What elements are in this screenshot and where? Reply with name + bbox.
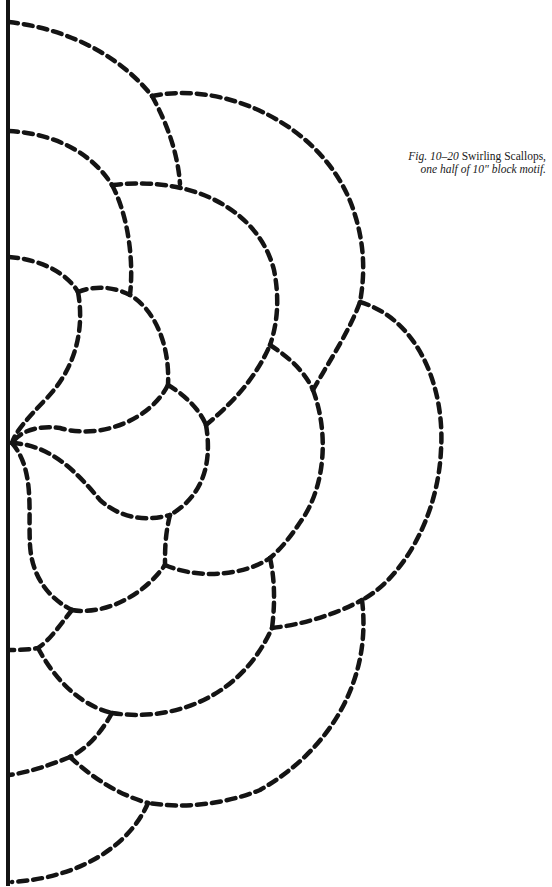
lower-link-4-line	[70, 713, 112, 757]
lower-big-curve-line	[112, 628, 272, 715]
third-arc-line	[9, 257, 78, 292]
top-outer-arc-line	[9, 22, 152, 96]
inner-petal-top-line	[78, 288, 168, 385]
center-to-link-line	[165, 515, 170, 565]
petal-link-3-line	[270, 345, 313, 390]
petal-link-1-line	[168, 385, 206, 425]
center-lower-curve-line	[12, 443, 170, 518]
lower-left-2-line	[9, 757, 70, 775]
right-petal-down-line	[270, 390, 323, 558]
lower-scallop-1-line	[72, 565, 165, 611]
petal-link-2-line	[206, 345, 270, 425]
big-right-scallop-line	[360, 302, 441, 600]
lower-link-1-line	[165, 558, 270, 574]
bottom-arc-line	[12, 803, 148, 882]
center-petal-right-line	[170, 425, 208, 515]
lower-link-2-line	[270, 558, 274, 628]
lower-scallop-2-line	[38, 648, 112, 713]
lower-scallop-3-line	[70, 757, 148, 803]
figure-caption: Fig. 10–20 Swirling Scallops, one half o…	[346, 150, 546, 176]
lower-outer-scallop-line	[148, 600, 363, 805]
middle-scallop-line	[112, 183, 277, 345]
right-petal-up-line	[313, 302, 360, 390]
figure-subtitle: one half of 10" block motif.	[346, 163, 546, 176]
top-connector-line	[152, 96, 180, 184]
lower-link-3-line	[272, 600, 362, 628]
outer-scallop-top-line	[152, 93, 363, 302]
quilting-motif-figure	[0, 0, 552, 887]
inner-petal-bottom-line	[12, 385, 168, 443]
second-connector-line	[112, 185, 131, 295]
second-arc-line	[9, 131, 112, 185]
figure-title: Swirling Scallops,	[462, 150, 546, 162]
figure-number: Fig. 10–20	[408, 150, 458, 162]
lower-left-1-line	[9, 610, 72, 650]
center-down-line	[12, 443, 72, 610]
inner-petal-left-line	[12, 292, 80, 443]
